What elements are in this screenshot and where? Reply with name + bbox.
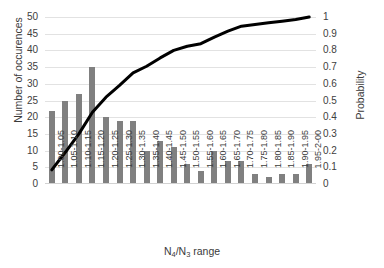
y-tick-left-0: 0 bbox=[12, 179, 38, 189]
chart-figure: Number of occurences Probability N4/N3 r… bbox=[0, 0, 384, 268]
y-tick-left-25: 25 bbox=[12, 96, 38, 106]
x-tick-label: 1.65-1.70 bbox=[232, 130, 242, 188]
y-tick-left-35: 35 bbox=[12, 62, 38, 72]
x-axis-title-sub2: 3 bbox=[186, 250, 190, 259]
x-tick-label: 1.15-1.20 bbox=[96, 130, 106, 188]
y-tick-left-45: 45 bbox=[12, 29, 38, 39]
y-tick-right-0.1: 0.1 bbox=[323, 162, 349, 172]
y-axis-title-right: Probability bbox=[354, 40, 368, 150]
x-tick-label: 1.60-1.65 bbox=[218, 130, 228, 188]
x-tick-label: 1.70-1.75 bbox=[245, 130, 255, 188]
y-tick-right-0.4: 0.4 bbox=[323, 112, 349, 122]
x-tick-label: 1.30-1.35 bbox=[137, 130, 147, 188]
y-tick-right-0.9: 0.9 bbox=[323, 29, 349, 39]
y-tick-right-0.7: 0.7 bbox=[323, 62, 349, 72]
x-tick-label: 1.95-2-00 bbox=[313, 130, 323, 188]
x-tick-label: 1.45-1.50 bbox=[178, 130, 188, 188]
x-axis-title: N4/N3 range bbox=[0, 245, 384, 257]
y-tick-left-50: 50 bbox=[12, 12, 38, 22]
y-tick-left-10: 10 bbox=[12, 146, 38, 156]
y-tick-right-0.8: 0.8 bbox=[323, 45, 349, 55]
y-tick-right-0.3: 0.3 bbox=[323, 129, 349, 139]
x-tick-label: 1.40-1.45 bbox=[164, 130, 174, 188]
y-tick-right-0.6: 0.6 bbox=[323, 79, 349, 89]
x-axis-title-post: range bbox=[190, 245, 220, 257]
x-tick-label: 1.10-1.15 bbox=[83, 130, 93, 188]
x-tick-label: 1.20-1.25 bbox=[110, 130, 120, 188]
x-tick-label: 1.05-1.10 bbox=[69, 130, 79, 188]
x-tick-label: 1.25-1.30 bbox=[124, 130, 134, 188]
x-axis-title-mid: /N bbox=[176, 245, 187, 257]
x-tick-label: 1.75-1.80 bbox=[259, 130, 269, 188]
x-tick-label: 1.00-1.05 bbox=[56, 130, 66, 188]
y-tick-left-20: 20 bbox=[12, 112, 38, 122]
y-tick-left-5: 5 bbox=[12, 162, 38, 172]
y-tick-right-0: 0 bbox=[323, 179, 349, 189]
x-tick-label: 1.50-1.55 bbox=[191, 130, 201, 188]
y-tick-left-15: 15 bbox=[12, 129, 38, 139]
x-tick-label: 1.90-1.95 bbox=[300, 130, 310, 188]
x-tick-label: 1.85-1.90 bbox=[286, 130, 296, 188]
x-axis-title-sub1: 4 bbox=[171, 250, 175, 259]
y-tick-left-40: 40 bbox=[12, 45, 38, 55]
x-tick-label: 1.80-1.85 bbox=[273, 130, 283, 188]
x-tick-label: 1.55-1.60 bbox=[205, 130, 215, 188]
x-tick-label: 1.35-1.40 bbox=[151, 130, 161, 188]
y-tick-right-0.5: 0.5 bbox=[323, 96, 349, 106]
y-tick-left-30: 30 bbox=[12, 79, 38, 89]
y-tick-right-0.2: 0.2 bbox=[323, 146, 349, 156]
y-tick-right-1: 1 bbox=[323, 12, 349, 22]
